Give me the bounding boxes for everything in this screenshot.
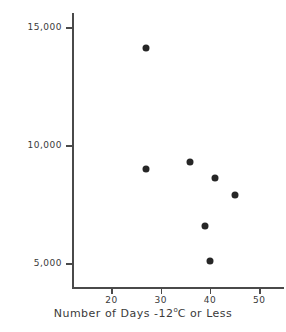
x-tick-mark — [210, 288, 211, 294]
x-tick-label: 50 — [253, 295, 265, 305]
data-point — [212, 175, 219, 182]
data-point — [231, 191, 238, 198]
x-axis-title-prefix: Number of Days -12 — [54, 307, 174, 320]
y-tick-mark — [66, 263, 72, 264]
y-tick-mark — [66, 145, 72, 146]
x-tick-mark — [161, 288, 162, 294]
x-axis-title-suffix: C or Less — [178, 307, 233, 320]
y-axis-title: Number of Adults Returning — [0, 0, 22, 332]
x-tick-label: 20 — [105, 295, 117, 305]
x-axis-line — [72, 287, 284, 289]
y-tick-label: 5,000 — [34, 258, 62, 268]
y-axis-line — [72, 13, 74, 288]
x-tick-mark — [259, 288, 260, 294]
data-point — [202, 222, 209, 229]
x-tick-mark — [111, 288, 112, 294]
data-point — [187, 158, 194, 165]
y-tick-label: 10,000 — [28, 140, 63, 150]
scatter-plot: Number of Adults Returning 5,00010,00015… — [0, 0, 286, 332]
x-tick-label: 30 — [154, 295, 166, 305]
data-point — [207, 258, 214, 265]
x-axis-title: Number of Days -12oC or Less — [0, 306, 286, 320]
data-point — [143, 45, 150, 52]
y-tick-mark — [66, 27, 72, 28]
data-point — [143, 165, 150, 172]
x-tick-label: 40 — [204, 295, 216, 305]
y-tick-label: 15,000 — [28, 22, 63, 32]
